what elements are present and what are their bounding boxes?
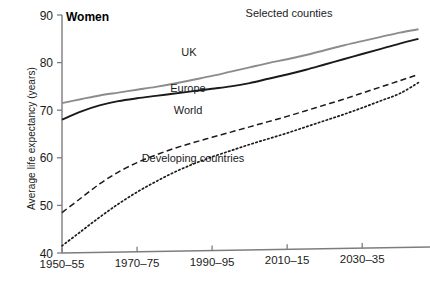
x-axis-ticks: 1950–551970–751990–952010–152030–35 xyxy=(40,243,385,270)
chart-series-lines xyxy=(62,29,418,246)
series-line-developing-countries xyxy=(62,83,418,246)
x-tick-label: 1950–55 xyxy=(40,258,85,270)
x-tick-label: 1970–75 xyxy=(115,257,160,269)
series-label-world: World xyxy=(174,104,203,116)
y-axis-ticks: 405060708090 xyxy=(40,9,62,261)
chart-figure: Average life expectancy (years) 40506070… xyxy=(0,0,430,285)
x-tick-label: 2030–35 xyxy=(340,253,385,265)
series-label-uk: UK xyxy=(181,46,197,58)
series-label-developing-countries: Developing countries xyxy=(142,152,245,164)
chart-series-labels: UKEuropeWorldDeveloping countries xyxy=(142,46,245,164)
series-line-world xyxy=(62,75,418,213)
annotation-selected-countries: Selected counties xyxy=(246,7,333,19)
y-tick-label: 70 xyxy=(40,104,54,118)
series-label-europe: Europe xyxy=(170,82,205,94)
y-tick-label: 90 xyxy=(40,9,54,23)
y-tick-label: 50 xyxy=(40,199,54,213)
y-tick-label: 60 xyxy=(40,151,54,165)
y-tick-label: 80 xyxy=(40,56,54,70)
x-tick-label: 1990–95 xyxy=(190,256,235,268)
x-tick-label: 2010–15 xyxy=(265,254,310,266)
chart-plot-area: 405060708090 1950–551970–751990–952010–1… xyxy=(0,0,430,285)
chart-title: Women xyxy=(66,10,109,24)
